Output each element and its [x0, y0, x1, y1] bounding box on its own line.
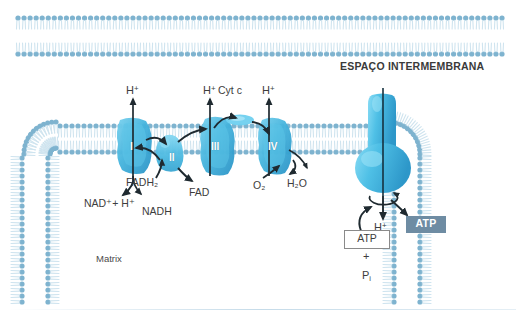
- fadh2-label: FADH₂: [126, 176, 158, 188]
- diagram-canvas: ESPAÇO INTERMEMBRANA Matrix H+ H+ H+ H+ …: [0, 0, 524, 321]
- inorganic-phosphate-label: Pi: [362, 269, 371, 283]
- h-plus-complex-iv-label: H+: [262, 84, 275, 96]
- nadh-label: NADH: [142, 205, 172, 217]
- nad-plus-h-plus-label: NAD⁺+ H⁺: [84, 197, 135, 209]
- complex-iv-numeral: IV: [268, 141, 277, 152]
- outer-membrane: [15, 15, 504, 56]
- cyt-c-label: Cyt c: [218, 84, 242, 96]
- intermembrane-space-label: ESPAÇO INTERMEMBRANA: [340, 60, 484, 72]
- complex-i-shape[interactable]: [117, 118, 152, 174]
- fad-label: FAD: [189, 186, 209, 198]
- membrane-layer: [0, 0, 524, 321]
- complex-iii-numeral: III: [211, 141, 219, 152]
- complex-ii-numeral: II: [169, 152, 175, 163]
- h-plus-complex-i-label: H+: [126, 84, 139, 96]
- plus-sign-label: +: [363, 250, 369, 262]
- atp-synthase-shape[interactable]: [355, 88, 411, 205]
- atp-product-badge[interactable]: ATP: [406, 216, 446, 233]
- o2-label: O₂: [253, 179, 265, 191]
- h2o-label: H₂O: [287, 177, 307, 189]
- bottom-divider: [8, 309, 516, 310]
- matrix-label: Matrix: [96, 253, 122, 264]
- h-plus-complex-iii-label: H+: [203, 84, 216, 96]
- adp-substrate-box[interactable]: ATP: [344, 230, 390, 249]
- complex-i-numeral: I: [130, 141, 133, 152]
